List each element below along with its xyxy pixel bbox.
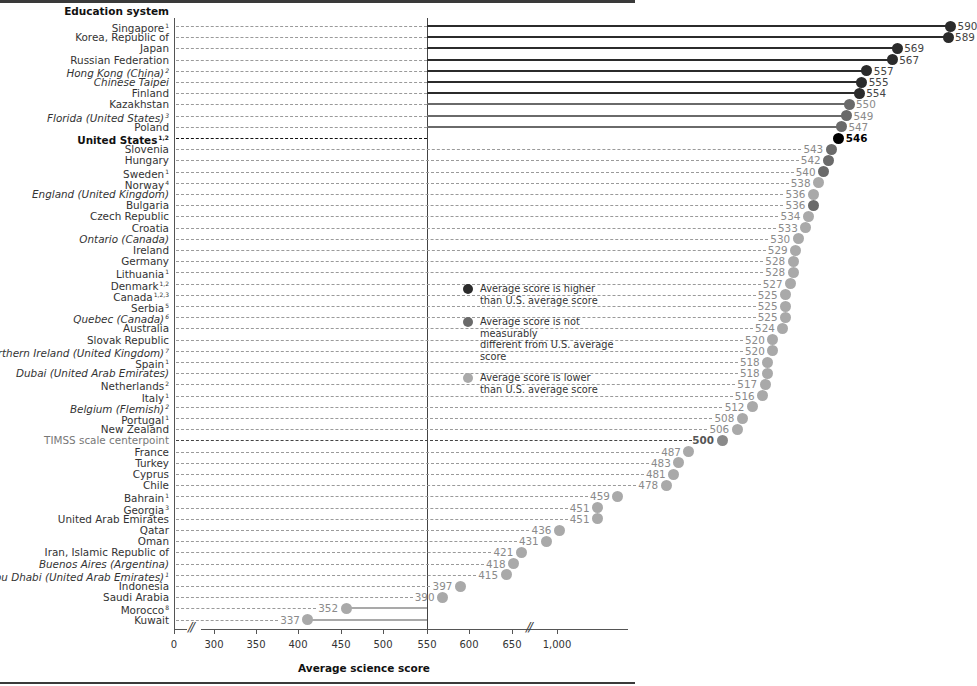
footnote-marker: 7 bbox=[165, 347, 169, 354]
axis-break-icon: // bbox=[526, 619, 531, 634]
lollipop-stem bbox=[427, 25, 951, 27]
score-dot-icon bbox=[861, 65, 872, 76]
footnote-marker: 3 bbox=[165, 504, 169, 511]
x-tick-label: 550 bbox=[417, 639, 436, 650]
row-label: Cyprus bbox=[133, 468, 169, 480]
leader-line bbox=[176, 149, 801, 150]
x-axis-line bbox=[540, 629, 558, 630]
leader-line bbox=[176, 60, 427, 61]
score-dot-icon bbox=[760, 379, 771, 390]
row-label: Slovenia bbox=[125, 143, 169, 155]
us-average-line bbox=[427, 18, 428, 629]
row-label: Kazakhstan bbox=[109, 98, 169, 110]
bottom-rule bbox=[0, 682, 635, 684]
score-dot-icon bbox=[767, 345, 778, 356]
score-dot-icon bbox=[780, 289, 791, 300]
score-value: 483 bbox=[649, 457, 671, 469]
row-label: Korea, Republic of bbox=[75, 31, 169, 43]
leader-line bbox=[176, 48, 427, 49]
row-label: Australia bbox=[123, 322, 169, 334]
score-dot-icon bbox=[844, 99, 855, 110]
score-value: 542 bbox=[799, 154, 821, 166]
lollipop-stem bbox=[427, 59, 892, 61]
score-dot-icon bbox=[887, 54, 898, 65]
row-label: Poland bbox=[134, 121, 169, 133]
score-dot-icon bbox=[302, 614, 313, 625]
leader-line bbox=[176, 452, 659, 453]
leader-line bbox=[176, 384, 735, 385]
score-value: 508 bbox=[712, 412, 734, 424]
footnote-marker: 1 bbox=[165, 168, 169, 175]
footnote-marker: 6 bbox=[165, 313, 169, 320]
score-dot-icon bbox=[732, 424, 743, 435]
x-tick bbox=[214, 629, 215, 634]
row-label: Czech Republic bbox=[90, 210, 169, 222]
legend-dot-higher-icon bbox=[463, 284, 473, 294]
row-label: Turkey bbox=[135, 457, 169, 469]
lollipop-stem bbox=[308, 619, 427, 621]
row-label: New Zealand bbox=[101, 423, 169, 435]
score-value: 337 bbox=[278, 614, 300, 626]
score-dot-icon bbox=[823, 155, 834, 166]
score-value: 525 bbox=[756, 311, 778, 323]
score-value: 527 bbox=[761, 278, 783, 290]
x-tick-label: 450 bbox=[331, 639, 350, 650]
leader-line bbox=[176, 82, 427, 83]
score-value: 554 bbox=[866, 87, 886, 99]
score-value: 543 bbox=[801, 143, 823, 155]
score-value: 536 bbox=[783, 188, 805, 200]
leader-line bbox=[176, 71, 427, 72]
row-label: TIMSS scale centerpoint bbox=[44, 434, 169, 446]
x-tick bbox=[427, 629, 428, 634]
score-value: 390 bbox=[413, 591, 435, 603]
footnote-marker: 1 bbox=[165, 414, 169, 421]
row-label: Oman bbox=[138, 535, 169, 547]
legend: Average score is higher than U.S. averag… bbox=[463, 283, 633, 405]
leader-line bbox=[176, 362, 738, 363]
score-value: 569 bbox=[904, 42, 924, 54]
x-tick bbox=[256, 629, 257, 634]
score-dot-icon bbox=[437, 592, 448, 603]
leader-line bbox=[176, 250, 766, 251]
score-value: 352 bbox=[316, 602, 338, 614]
footnote-marker: 1,2 bbox=[159, 280, 169, 287]
score-value: 590 bbox=[958, 20, 977, 32]
score-value: 516 bbox=[733, 390, 755, 402]
score-value: 528 bbox=[763, 255, 785, 267]
leader-line bbox=[176, 552, 491, 553]
score-value: 506 bbox=[707, 423, 729, 435]
score-value: 528 bbox=[763, 266, 785, 278]
leader-line bbox=[176, 474, 644, 475]
leader-line bbox=[176, 340, 743, 341]
legend-dot-lower-icon bbox=[463, 373, 473, 383]
leader-line bbox=[176, 261, 763, 262]
row-label: Chile bbox=[143, 479, 169, 491]
score-dot-icon bbox=[818, 166, 829, 177]
score-dot-icon bbox=[508, 558, 519, 569]
legend-item-same: Average score is not measurably differen… bbox=[463, 316, 633, 362]
score-value: 529 bbox=[766, 244, 788, 256]
footnote-marker: 4 bbox=[165, 179, 169, 186]
x-tick bbox=[557, 629, 558, 634]
leader-line bbox=[176, 407, 722, 408]
score-value: 536 bbox=[783, 199, 805, 211]
score-value: 534 bbox=[778, 210, 800, 222]
score-dot-icon bbox=[762, 368, 773, 379]
leader-line bbox=[176, 508, 568, 509]
footnote-marker: 1 bbox=[165, 571, 169, 578]
score-value: 518 bbox=[738, 356, 760, 368]
score-dot-icon bbox=[668, 469, 679, 480]
score-dot-icon bbox=[737, 413, 748, 424]
score-value: 512 bbox=[722, 401, 744, 413]
row-label: Croatia bbox=[132, 222, 169, 234]
footnote-marker: 2 bbox=[165, 403, 169, 410]
score-dot-icon bbox=[455, 581, 466, 592]
footnote-marker: 2 bbox=[165, 67, 169, 74]
score-dot-icon bbox=[777, 323, 788, 334]
x-tick-label: 500 bbox=[373, 639, 392, 650]
leader-line bbox=[176, 396, 733, 397]
score-dot-icon bbox=[813, 177, 824, 188]
leader-line bbox=[176, 418, 712, 419]
leader-line bbox=[176, 138, 427, 139]
